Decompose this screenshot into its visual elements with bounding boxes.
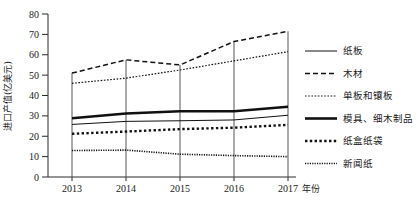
y-tick-label: 50 xyxy=(29,70,39,81)
x-tick-label: 2014 xyxy=(116,183,136,194)
x-tick-label: 2016 xyxy=(224,183,244,194)
y-tick-label: 70 xyxy=(29,29,39,40)
legend-label-4: 模具、细木制品 xyxy=(343,113,413,124)
y-tick-label: 60 xyxy=(29,49,39,60)
legend-label-5: 纸盒纸袋 xyxy=(343,135,383,146)
legend-label-3: 单板和镶板 xyxy=(343,90,393,101)
y-tick-label: 30 xyxy=(29,110,39,121)
x-axis-title: 年份 xyxy=(302,183,320,194)
x-tick-label: 2017 xyxy=(278,183,298,194)
chart-background xyxy=(0,0,420,214)
y-tick-label: 20 xyxy=(29,131,39,142)
legend-label-1: 纸板 xyxy=(343,45,363,56)
y-axis-tick-labels: 01020304050607080 xyxy=(29,9,39,183)
line-chart: 01020304050607080 20132014201520162017 进… xyxy=(0,0,420,214)
y-tick-label: 10 xyxy=(29,151,39,162)
x-tick-label: 2013 xyxy=(62,183,82,194)
chart-figure: 01020304050607080 20132014201520162017 进… xyxy=(0,0,420,214)
y-tick-label: 0 xyxy=(34,172,39,183)
legend-label-2: 木材 xyxy=(343,68,363,79)
y-tick-label: 80 xyxy=(29,9,39,20)
legend-label-6: 新闻纸 xyxy=(343,158,373,169)
y-tick-label: 40 xyxy=(29,90,39,101)
x-tick-label: 2015 xyxy=(170,183,190,194)
y-axis-title: 进口产值(亿美元) xyxy=(2,61,13,131)
